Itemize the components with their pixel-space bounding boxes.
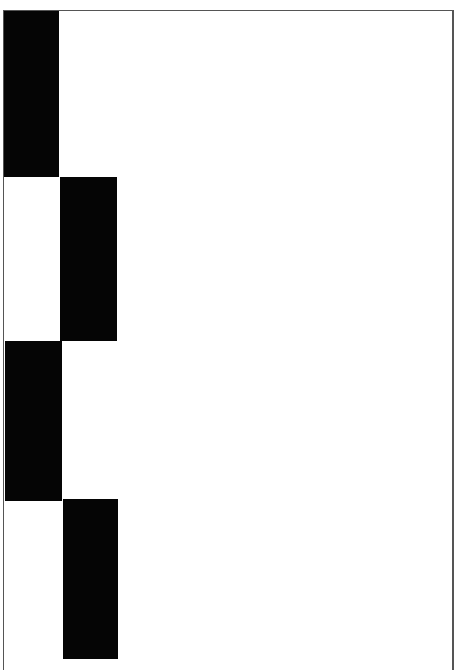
figure-frame: [3, 10, 454, 670]
black-block-3: [5, 341, 62, 501]
black-block-1: [4, 11, 59, 177]
black-block-4: [63, 499, 118, 659]
black-block-2: [60, 177, 117, 341]
